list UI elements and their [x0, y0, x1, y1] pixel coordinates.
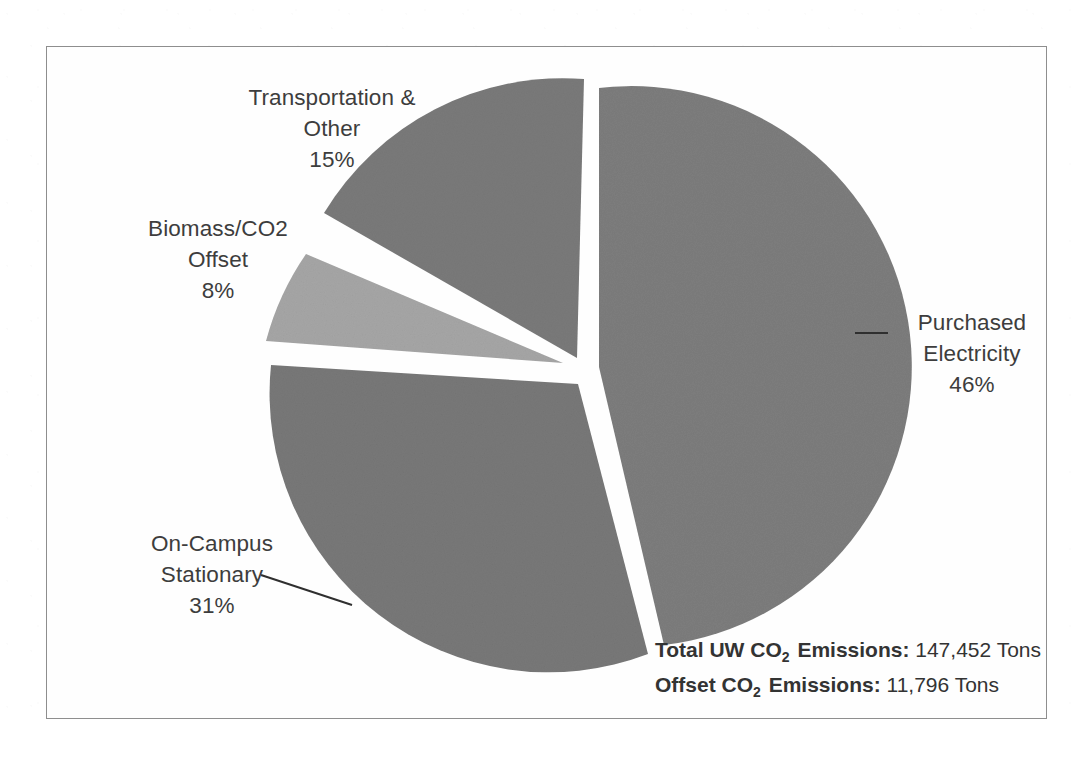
pie-label-percent: 15%	[232, 144, 432, 175]
offset-emissions-value: 11,796 Tons	[887, 673, 1000, 696]
total-emissions-label-mid: Emissions:	[792, 638, 910, 661]
total-emissions-value: 147,452 Tons	[915, 638, 1041, 661]
pie-label-percent: 31%	[112, 590, 312, 621]
pie-label-line1: Transportation &	[232, 82, 432, 113]
pie-label-biomass-co2-offset: Biomass/CO2 Offset 8%	[118, 213, 318, 306]
pie-label-percent: 8%	[118, 275, 318, 306]
offset-emissions-subscript: 2	[753, 684, 763, 700]
pie-label-line1: Biomass/CO2	[118, 213, 318, 244]
total-emissions-line: Total UW CO2 Emissions: 147,452 Tons	[655, 636, 1041, 671]
offset-emissions-label-prefix: Offset CO	[655, 673, 753, 696]
pie-label-transportation-other: Transportation & Other 15%	[232, 82, 432, 175]
offset-emissions-line: Offset CO2 Emissions: 11,796 Tons	[655, 671, 1041, 706]
pie-label-line2: Offset	[118, 244, 318, 275]
total-emissions-subscript: 2	[782, 649, 792, 665]
pie-label-purchased-electricity: Purchased Electricity 46%	[872, 307, 1072, 400]
pie-label-percent: 46%	[872, 369, 1072, 400]
pie-label-line2: Stationary	[112, 559, 312, 590]
emissions-totals: Total UW CO2 Emissions: 147,452 Tons Off…	[655, 636, 1041, 706]
pie-slice-on-campus-stationary[interactable]	[270, 365, 648, 672]
pie-label-line1: On-Campus	[112, 528, 312, 559]
pie-label-line1: Purchased	[872, 307, 1072, 338]
pie-label-on-campus-stationary: On-Campus Stationary 31%	[112, 528, 312, 621]
pie-label-line2: Electricity	[872, 338, 1072, 369]
pie-slice-purchased-electricity[interactable]	[599, 86, 912, 645]
pie-label-line2: Other	[232, 113, 432, 144]
total-emissions-label-prefix: Total UW CO	[655, 638, 782, 661]
offset-emissions-label-mid: Emissions:	[763, 673, 881, 696]
